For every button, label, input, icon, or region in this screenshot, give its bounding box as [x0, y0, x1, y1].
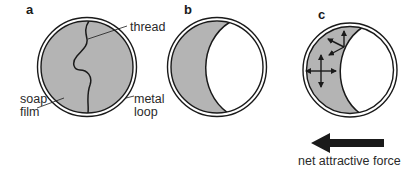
metal-loop-label-line1: metal [134, 92, 165, 106]
soap-film-diagram: a thread soap film metal loop b c [0, 0, 419, 172]
soap-film-label-line1: soap [20, 92, 47, 106]
net-force-arrow-icon [311, 133, 384, 153]
panel-b: b [160, 2, 267, 117]
panel-letter-a: a [26, 2, 34, 17]
panel-letter-b: b [184, 2, 192, 17]
panel-a: a thread soap film metal loop [20, 2, 165, 119]
soap-film-label-line2: film [20, 105, 39, 119]
thread-label: thread [130, 20, 165, 34]
panel-letter-c: c [318, 7, 325, 22]
metal-loop-label-line2: loop [134, 105, 158, 119]
net-force-label: net attractive force [298, 154, 401, 168]
panel-c: c [300, 7, 397, 117]
